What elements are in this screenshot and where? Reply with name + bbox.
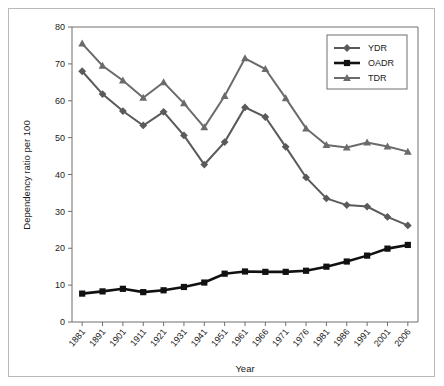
y-tick-label: 60 (55, 96, 65, 106)
chart-legend: YDROADRTDR (327, 35, 407, 89)
y-axis-title: Dependency ratio per 100 (21, 120, 32, 229)
x-tick-label: 2006 (392, 327, 413, 349)
y-tick-label: 20 (55, 243, 65, 253)
y-tick-label: 80 (55, 22, 65, 32)
x-tick-label: 1891 (87, 327, 108, 349)
data-point-square (405, 242, 411, 248)
x-tick-label: 1931 (168, 327, 189, 349)
plot-area-wrapper: 01020304050607080 1881189119011911192119… (0, 0, 444, 386)
x-tick-label: 1966 (250, 327, 271, 349)
x-axis-title: Year (235, 363, 254, 374)
data-point-diamond (343, 201, 351, 209)
data-point-square (201, 279, 207, 285)
legend-label-oadr: OADR (368, 58, 395, 68)
data-point-square (364, 253, 370, 259)
data-point-triangle (363, 138, 371, 145)
data-point-square (99, 288, 105, 294)
data-point-triangle (241, 54, 249, 61)
legend-label-ydr: YDR (368, 43, 388, 53)
y-tick-label: 30 (55, 207, 65, 217)
data-point-square (344, 258, 350, 264)
x-tick-label: 1991 (352, 327, 373, 349)
data-point-triangle (160, 78, 168, 85)
legend-label-tdr: TDR (368, 73, 387, 83)
x-tick-label: 2001 (372, 327, 393, 349)
x-tick-label: 1911 (128, 327, 148, 348)
data-point-square (79, 291, 85, 297)
series-ydr (78, 67, 411, 229)
data-point-square (120, 286, 126, 292)
data-point-square (344, 60, 350, 66)
y-axis-ticks: 01020304050607080 (55, 22, 72, 327)
data-point-square (283, 269, 289, 275)
data-point-diamond (404, 221, 412, 229)
x-tick-label: 1981 (311, 327, 332, 349)
y-tick-label: 70 (55, 59, 65, 69)
x-tick-label: 1901 (107, 327, 128, 349)
data-point-diamond (384, 213, 392, 221)
x-axis-ticks: 1881189119011911192119311941195119611966… (67, 322, 413, 349)
dependency-ratio-line-chart: 01020304050607080 1881189119011911192119… (0, 0, 444, 386)
x-tick-label: 1976 (291, 327, 312, 349)
data-point-square (181, 284, 187, 290)
x-tick-label: 1961 (229, 327, 250, 349)
series-line-ydr (82, 71, 408, 225)
chart-figure: 01020304050607080 1881189119011911192119… (0, 0, 444, 386)
x-tick-label: 1941 (189, 327, 210, 349)
data-point-triangle (78, 40, 86, 47)
y-tick-label: 50 (55, 133, 65, 143)
series-oadr (79, 242, 411, 297)
x-tick-label: 1971 (270, 327, 291, 349)
data-point-square (323, 264, 329, 270)
y-tick-label: 40 (55, 170, 65, 180)
data-point-square (384, 246, 390, 252)
data-point-diamond (363, 203, 371, 211)
data-point-square (160, 287, 166, 293)
data-point-square (242, 268, 248, 274)
data-point-square (303, 268, 309, 274)
x-tick-label: 1986 (331, 327, 352, 349)
x-tick-label: 1951 (209, 327, 230, 349)
data-point-square (262, 269, 268, 275)
x-tick-label: 1881 (67, 327, 88, 349)
data-point-square (140, 289, 146, 295)
x-tick-label: 1921 (148, 327, 169, 349)
y-tick-label: 10 (55, 280, 65, 290)
data-point-square (222, 271, 228, 277)
y-tick-label: 0 (60, 317, 65, 327)
